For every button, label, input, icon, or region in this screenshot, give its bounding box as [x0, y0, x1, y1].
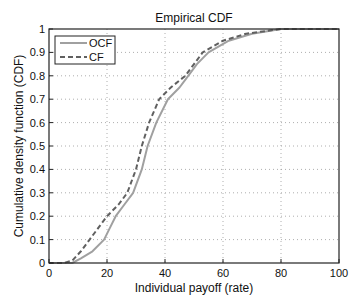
y-tick-label: 1 — [39, 23, 45, 35]
x-tick-label: 100 — [330, 267, 348, 279]
y-tick-label: 0.6 — [30, 117, 45, 129]
y-tick-label: 0 — [39, 257, 45, 269]
y-tick-label: 0.3 — [30, 187, 45, 199]
legend-ocf-label: OCF — [89, 37, 113, 49]
y-tick-label: 0.4 — [30, 163, 45, 175]
y-tick-label: 0.5 — [30, 140, 45, 152]
y-tick-label: 0.7 — [30, 93, 45, 105]
x-tick-label: 0 — [46, 267, 52, 279]
x-tick-label: 80 — [275, 267, 287, 279]
x-tick-label: 40 — [159, 267, 171, 279]
x-tick-label: 60 — [217, 267, 229, 279]
x-axis-label: Individual payoff (rate) — [135, 281, 254, 295]
cdf-chart: Empirical CDF 020406080100 00.10.20.30.4… — [0, 0, 364, 304]
legend-cf-label: CF — [89, 51, 104, 63]
chart-title: Empirical CDF — [155, 11, 232, 25]
legend: OCF CF — [55, 36, 115, 64]
y-tick-label: 0.2 — [30, 210, 45, 222]
y-tick-label: 0.1 — [30, 234, 45, 246]
y-tick-label: 0.8 — [30, 70, 45, 82]
y-tick-label: 0.9 — [30, 46, 45, 58]
x-ticks: 020406080100 — [46, 259, 348, 279]
y-axis-label: Cumulative density function (CDF) — [12, 55, 26, 238]
x-tick-label: 20 — [101, 267, 113, 279]
